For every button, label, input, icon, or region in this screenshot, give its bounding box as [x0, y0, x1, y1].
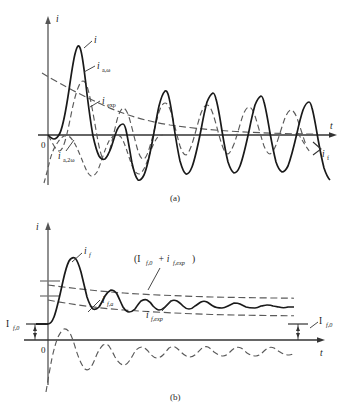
panel-b-x-axis-label: t	[320, 348, 323, 358]
panel-b-curve-i-f-a	[46, 329, 295, 392]
panel-b-If0-left-arrow-down-icon	[33, 333, 37, 338]
panel-b-label-If0-left-base: I	[6, 319, 9, 329]
panel-b-label-If0-left: I f,0	[6, 319, 20, 331]
panel-a-label-ia2w-sub: a,2ω	[63, 156, 74, 163]
panel-b-label-If0-left-sub: f,0	[13, 324, 20, 331]
panel-b-label-ifa-base: i	[102, 295, 105, 305]
panel-a-label-i-f: i f	[322, 149, 330, 161]
panel-a-leader-ia2w	[66, 140, 74, 151]
panel-a-leader-iaw	[84, 66, 95, 72]
panel-b-If0-left-arrow-up-icon	[33, 326, 37, 331]
panel-b-label-sum-close: )	[192, 254, 195, 265]
panel-a-x-arrow-icon	[329, 132, 337, 138]
panel-b-label-ifa-sub: f,a	[107, 300, 113, 307]
panel-a-curve-i-f-marker	[298, 133, 310, 152]
panel-a-leader-iexp	[90, 101, 100, 107]
panel-a-origin-label: 0	[41, 140, 46, 150]
panel-b-leader-ifexp	[162, 300, 172, 311]
panel-a-label-i: i	[94, 35, 97, 45]
figure-svg: i 0 t i i a,ω i exp i a,2ω i f	[0, 0, 362, 417]
panel-b-label-If0-right: I f,0	[319, 316, 333, 328]
panel-b-label-If0-right-base: I	[319, 316, 322, 326]
panel-a-label-if-sub: f	[327, 154, 330, 161]
panel-a-label-iexp-base: i	[102, 96, 105, 106]
panel-b-If0-right-arrow-up-icon	[296, 326, 300, 331]
panel-a-leader-i	[84, 41, 92, 48]
panel-b-label-if-base: i	[84, 246, 87, 256]
panel-b-label-ifexp-base: i	[146, 310, 149, 320]
panel-a-y-arrow-icon	[45, 16, 51, 24]
panel-b-x-arrow-icon	[317, 337, 325, 343]
panel-a-label-i-a-2omega: i a,2ω	[58, 151, 74, 163]
panel-b-y-arrow-icon	[45, 222, 51, 230]
panel-b-leader-If0-right	[310, 322, 318, 328]
panel-b-label-If0-right-sub: f,0	[326, 321, 333, 328]
panel-a-label-iaw-base: i	[97, 61, 100, 71]
panel-a-if-pointer-icon	[313, 142, 321, 155]
panel-a-y-axis-label: i	[56, 14, 59, 24]
panel-b-If0-right-marker	[288, 324, 308, 340]
panel-b-leader-ifa	[88, 300, 100, 312]
panel-a-label-iexp-sub: exp	[107, 101, 116, 108]
panel-a-label-iaw-sub: a,ω	[102, 66, 110, 73]
panel-a-x-axis-label: t	[330, 121, 333, 131]
panel-b-label-sum-sub2: f,exp	[173, 259, 185, 266]
panel-b: i 0 t i f (I f,0 + i f,exp ) i f,exp i f…	[6, 222, 333, 392]
panel-b-label-i-f-a: i f,a	[102, 295, 113, 307]
panel-a-label-ia2w-base: i	[58, 151, 61, 161]
panel-b-label-i-f: i f	[84, 246, 92, 258]
caption-panel-b: (b)	[170, 392, 181, 402]
caption-panel-a: (a)	[170, 193, 180, 203]
panel-b-curve-i-f-total	[36, 258, 294, 324]
panel-b-label-sum-sub1: f,0	[146, 259, 153, 266]
panel-b-leader-sum	[148, 268, 160, 290]
panel-b-label-sum: (I f,0 + i f,exp )	[134, 254, 195, 266]
panel-b-If0-left-marker	[26, 324, 46, 340]
panel-a-label-i-exp: i exp	[102, 96, 116, 108]
panel-b-label-sum-plus: + i	[158, 254, 170, 264]
panel-a-curve-i-exp	[42, 73, 318, 134]
panel-b-y-axis-label: i	[36, 222, 39, 232]
panel-b-origin-label: 0	[41, 345, 46, 355]
panel-b-label-if-sub: f	[89, 251, 92, 258]
figure-container: i 0 t i i a,ω i exp i a,2ω i f	[0, 0, 362, 417]
panel-b-label-ifexp-sub: f,exp	[151, 315, 163, 322]
panel-b-label-sum-open: (I	[134, 254, 140, 265]
panel-a: i 0 t i i a,ω i exp i a,2ω i f	[38, 14, 337, 185]
panel-a-label-i-a-omega: i a,ω	[97, 61, 110, 73]
panel-b-If0-right-arrow-down-icon	[296, 333, 300, 338]
panel-a-label-if-base: i	[322, 149, 325, 159]
panel-a-axes	[38, 16, 337, 185]
